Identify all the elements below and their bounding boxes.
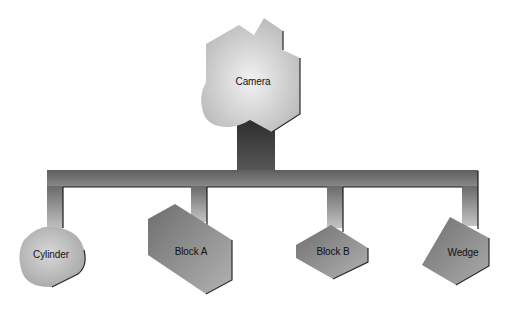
camera-label: Camera (236, 76, 271, 87)
block-b-label: Block B (316, 246, 349, 257)
connectors (47, 118, 478, 232)
wedge-connector (462, 186, 478, 226)
block-a-label: Block A (175, 246, 208, 257)
horizontal-bus-connector (47, 170, 478, 187)
cylinder-connector (47, 186, 63, 230)
hierarchy-diagram (0, 0, 508, 310)
cylinder-label: Cylinder (33, 249, 69, 260)
wedge-label: Wedge (447, 247, 478, 258)
block-b-connector (327, 186, 343, 228)
